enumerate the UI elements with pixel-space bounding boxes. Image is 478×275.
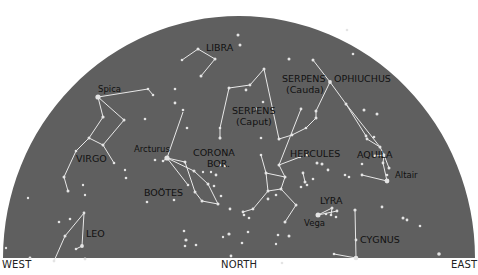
star-icon xyxy=(64,235,67,238)
star-icon xyxy=(195,244,198,247)
star-icon xyxy=(278,138,281,141)
star-icon xyxy=(229,208,232,211)
star-icon xyxy=(305,127,308,130)
star-icon xyxy=(69,218,72,221)
star-icon xyxy=(361,163,364,166)
star-icon xyxy=(363,109,366,112)
star-icon xyxy=(291,134,294,137)
star-icon xyxy=(265,172,268,175)
star-icon xyxy=(288,235,291,238)
star-icon xyxy=(252,208,255,211)
star-icon xyxy=(260,154,263,157)
star-icon xyxy=(366,138,369,141)
star-icon xyxy=(388,167,391,170)
constellation-sublabel: BOR. xyxy=(207,158,230,169)
star-icon xyxy=(248,217,251,220)
star-icon xyxy=(365,135,368,138)
star-icon xyxy=(275,243,277,245)
star-icon xyxy=(315,117,318,120)
star-icon xyxy=(275,194,278,197)
star-icon xyxy=(102,144,105,147)
star-icon xyxy=(220,195,223,198)
star-icon xyxy=(123,119,126,122)
star-icon xyxy=(353,208,356,211)
star-icon xyxy=(300,108,303,111)
star-icon xyxy=(242,211,245,214)
star-icon xyxy=(202,171,204,173)
star-icon xyxy=(214,58,217,61)
star-icon xyxy=(80,244,84,248)
star-icon xyxy=(247,231,250,234)
star-icon xyxy=(306,184,309,187)
star-icon xyxy=(245,89,248,92)
constellation-label: CYGNUS xyxy=(360,234,400,245)
star-icon xyxy=(243,214,246,217)
star-icon xyxy=(84,258,87,261)
star-icon xyxy=(197,48,200,51)
horizon-north-label: NORTH xyxy=(221,259,257,270)
sky-dome xyxy=(3,16,475,258)
star-icon xyxy=(304,181,307,184)
star-icon xyxy=(280,188,283,191)
horizon-west-label: WEST xyxy=(2,259,31,270)
star-icon xyxy=(210,171,212,173)
star-icon xyxy=(237,34,240,37)
star-icon xyxy=(373,136,376,139)
star-icon xyxy=(5,247,7,249)
star-icon xyxy=(361,174,364,177)
star-icon xyxy=(88,137,91,140)
star-icon xyxy=(215,174,218,177)
star-icon xyxy=(144,118,147,121)
star-icon xyxy=(316,213,321,218)
star-icon xyxy=(382,162,385,165)
star-icon xyxy=(300,186,303,189)
star-icon xyxy=(241,242,244,245)
star-icon xyxy=(63,176,66,179)
horizon-east-label: EAST xyxy=(451,259,477,270)
star-icon xyxy=(284,221,287,224)
star-icon xyxy=(124,169,126,171)
star-icon xyxy=(219,127,222,130)
star-icon xyxy=(219,137,221,139)
star-icon xyxy=(346,29,349,32)
star-icon xyxy=(182,109,185,112)
star-name-label: Spica xyxy=(98,84,121,94)
constellation-label: LIBRA xyxy=(206,42,234,53)
star-icon xyxy=(376,113,379,116)
star-icon xyxy=(277,234,280,237)
star-icon xyxy=(284,176,287,179)
star-icon xyxy=(260,137,263,140)
star-icon xyxy=(263,68,266,71)
star-icon xyxy=(147,88,150,91)
constellation-label: OPHIUCHUS xyxy=(334,73,391,84)
star-icon xyxy=(184,245,187,248)
star-icon xyxy=(354,256,359,261)
constellation-label: SERPENS xyxy=(282,73,326,84)
star-name-label: Altair xyxy=(395,170,418,180)
star-icon xyxy=(75,248,78,251)
star-icon xyxy=(336,210,339,213)
star-icon xyxy=(201,200,204,203)
star-icon xyxy=(348,176,351,179)
star-icon xyxy=(222,236,224,238)
star-icon xyxy=(67,190,70,193)
star-icon xyxy=(154,159,157,162)
star-icon xyxy=(321,163,324,166)
star-name-label: Arcturus xyxy=(134,144,170,154)
star-icon xyxy=(315,110,318,113)
star-icon xyxy=(173,199,176,202)
constellation-label: VIRGO xyxy=(76,153,107,164)
star-icon xyxy=(193,170,196,173)
constellation-sublabel: (Caput) xyxy=(236,116,272,127)
star-icon xyxy=(82,184,84,186)
star-icon xyxy=(27,197,29,199)
constellation-label: LEO xyxy=(86,228,105,239)
star-icon xyxy=(84,194,86,196)
star-icon xyxy=(312,178,315,181)
star-icon xyxy=(181,59,184,62)
star-icon xyxy=(164,155,169,160)
star-icon xyxy=(352,53,355,56)
star-icon xyxy=(174,88,177,91)
star-icon xyxy=(333,253,336,256)
constellation-label: SERPENS xyxy=(232,105,276,116)
